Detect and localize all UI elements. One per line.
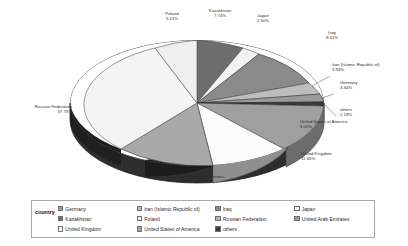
legend-item-poland[interactable]: Poland xyxy=(137,214,214,224)
legend: country Germany Iran (Islamic Republic o… xyxy=(31,200,375,238)
legend-item-label: United States of America xyxy=(144,226,199,232)
pie-chart-graphic xyxy=(0,0,408,192)
legend-swatch-icon xyxy=(137,226,142,231)
legend-item-label: United Kingdom xyxy=(65,226,101,232)
legend-item-label: Poland xyxy=(144,216,160,222)
legend-item-united-arab-emirates[interactable]: United Arab Emirates xyxy=(294,214,371,224)
pie-label-russian-federation: Russian Federation 37.73% xyxy=(8,104,72,114)
pie-label-united-kingdom: United Kingdom 11.65% xyxy=(301,151,361,161)
legend-item-label: Japan xyxy=(302,206,316,212)
legend-swatch-icon xyxy=(215,206,220,211)
legend-title: country xyxy=(35,204,58,216)
legend-swatch-icon xyxy=(58,206,63,211)
pie-label-germany: Germany 3.34% xyxy=(340,80,390,90)
legend-item-label: Russian Federation xyxy=(223,216,267,222)
pie-label-united-states-of-america: United States of America 9.00% xyxy=(300,119,380,129)
pie-label-iran: Iran (Islamic Republic of) 3.93% xyxy=(332,62,408,72)
pie-chart-area: Poland 5.21% Kazakhstan 7.74% Japan 2.50… xyxy=(0,0,408,192)
legend-swatch-icon xyxy=(215,226,220,231)
pie-label-kazakhstan: Kazakhstan 7.74% xyxy=(194,8,246,18)
legend-item-others[interactable]: others xyxy=(215,224,292,234)
legend-swatch-icon xyxy=(58,216,63,221)
legend-item-russian-federation[interactable]: Russian Federation xyxy=(215,214,292,224)
legend-swatch-icon xyxy=(294,216,299,221)
legend-items: Germany Iran (Islamic Republic of) Iraq … xyxy=(58,204,371,235)
legend-item-label: Kazakhstan xyxy=(65,216,91,222)
legend-item-label: Iran (Islamic Republic of) xyxy=(144,206,200,212)
legend-item-iran[interactable]: Iran (Islamic Republic of) xyxy=(137,204,214,214)
legend-item-united-states-of-america[interactable]: United States of America xyxy=(137,224,214,234)
pie-label-iraq: Iraq 9.41% xyxy=(316,30,348,40)
pie-label-others: others 1.18% xyxy=(340,107,380,117)
legend-item-united-kingdom[interactable]: United Kingdom xyxy=(58,224,135,234)
legend-item-iraq[interactable]: Iraq xyxy=(215,204,292,214)
legend-swatch-icon xyxy=(137,216,142,221)
legend-item-label: Iraq xyxy=(223,206,232,212)
legend-item-label: Germany xyxy=(65,206,86,212)
legend-swatch-icon xyxy=(137,206,142,211)
legend-swatch-icon xyxy=(58,226,63,231)
legend-item-germany[interactable]: Germany xyxy=(58,204,135,214)
pie-label-poland: Poland 5.21% xyxy=(150,11,194,21)
pie-label-japan: Japan 2.50% xyxy=(246,13,280,23)
legend-item-label: others xyxy=(223,226,237,232)
legend-swatch-icon xyxy=(215,216,220,221)
legend-item-japan[interactable]: Japan xyxy=(294,204,371,214)
legend-item-label: United Arab Emirates xyxy=(302,216,349,222)
pie-label-united-arab-emirates: United Arab Emirates 12.34% xyxy=(162,174,246,184)
legend-item-kazakhstan[interactable]: Kazakhstan xyxy=(58,214,135,224)
legend-swatch-icon xyxy=(294,206,299,211)
